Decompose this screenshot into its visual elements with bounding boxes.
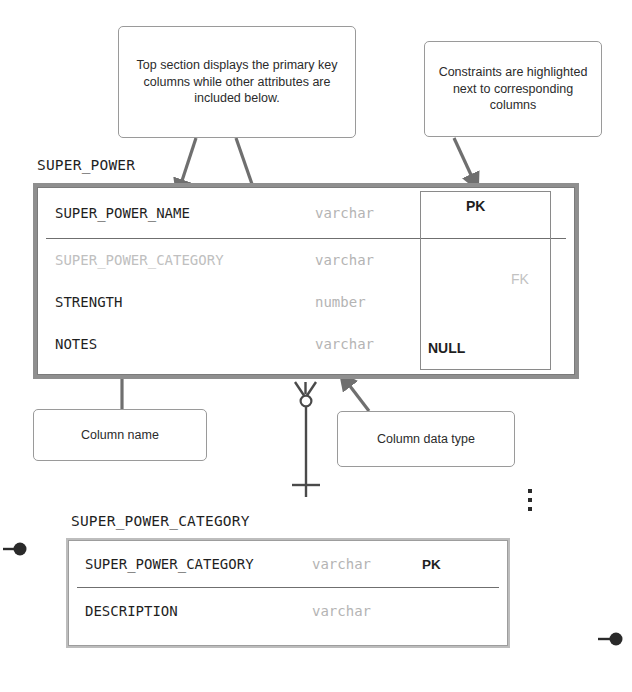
column-data-type: varchar: [315, 336, 407, 352]
ellipsis-dot: [528, 507, 532, 511]
callout-column-data-type: Column data type: [337, 411, 515, 467]
left-relationship-endpoint: [3, 543, 27, 556]
column-data-type: varchar: [312, 556, 422, 572]
column-name: SUPER_POWER_NAME: [38, 205, 315, 221]
column-data-type: varchar: [315, 205, 407, 221]
column-data-type: varchar: [315, 252, 407, 268]
column-data-type: varchar: [312, 603, 422, 619]
column-name: SUPER_POWER_CATEGORY: [38, 252, 315, 268]
relationship-connector: [292, 382, 320, 497]
entity-title-super-power-category: SUPER_POWER_CATEGORY: [71, 513, 250, 529]
continuation-ellipsis-icon: [528, 489, 532, 511]
callout-column-name: Column name: [33, 409, 207, 461]
right-relationship-endpoint: [598, 633, 623, 646]
callout-top-section: Top section displays the primary key col…: [118, 26, 356, 138]
primary-key-section-super-power-category: SUPER_POWER_CATEGORY varchar PK: [69, 541, 507, 587]
column-data-type: number: [315, 294, 407, 310]
constraint-label-pk: PK: [466, 198, 485, 214]
entity-super-power-category[interactable]: SUPER_POWER_CATEGORY varchar PK DESCRIPT…: [66, 538, 510, 648]
ellipsis-dot: [528, 489, 532, 493]
column-name: NOTES: [38, 336, 315, 352]
table-row[interactable]: SUPER_POWER_CATEGORY varchar PK: [69, 541, 507, 587]
callout-constraints: Constraints are highlighted next to corr…: [424, 41, 602, 137]
entity-title-super-power: SUPER_POWER: [37, 157, 135, 173]
column-constraint: PK: [422, 557, 507, 572]
er-diagram-canvas: Top section displays the primary key col…: [0, 0, 632, 692]
constraint-label-null: NULL: [428, 340, 465, 356]
column-name: STRENGTH: [38, 294, 315, 310]
attribute-section-super-power-category: DESCRIPTION varchar: [69, 588, 507, 634]
constraint-label-fk: FK: [511, 271, 529, 287]
column-name: SUPER_POWER_CATEGORY: [69, 556, 312, 572]
column-name: DESCRIPTION: [69, 603, 312, 619]
entity-super-power-category-inner: SUPER_POWER_CATEGORY varchar PK DESCRIPT…: [68, 540, 508, 646]
table-row[interactable]: DESCRIPTION varchar: [69, 588, 507, 634]
ellipsis-dot: [528, 498, 532, 502]
